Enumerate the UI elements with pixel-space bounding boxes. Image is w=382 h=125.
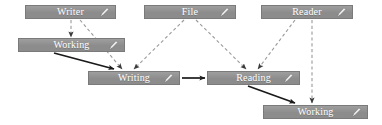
node-file-label: File: [182, 7, 198, 17]
edge-file-to-reading: [196, 20, 246, 69]
node-working-top[interactable]: Working: [18, 38, 125, 52]
edge-working-top-to-writing: [54, 53, 114, 69]
edge-reading-to-working-bot: [248, 86, 295, 103]
pencil-icon[interactable]: [99, 7, 110, 18]
diagram-canvas: Writer File Reader Working Writing: [0, 0, 382, 125]
node-working-bottom[interactable]: Working: [263, 105, 368, 119]
pencil-icon[interactable]: [163, 73, 174, 84]
pencil-icon[interactable]: [219, 7, 230, 18]
node-reader[interactable]: Reader: [261, 5, 353, 19]
pencil-icon[interactable]: [108, 40, 119, 51]
node-writing-label: Writing: [118, 73, 150, 83]
node-reading-label: Reading: [236, 73, 271, 83]
node-file[interactable]: File: [144, 5, 236, 19]
edge-reader-to-reading: [258, 20, 295, 69]
pencil-icon[interactable]: [336, 7, 347, 18]
edge-file-to-writing: [134, 20, 184, 69]
node-writing[interactable]: Writing: [88, 71, 180, 85]
pencil-icon[interactable]: [283, 73, 294, 84]
node-reader-label: Reader: [292, 7, 322, 17]
pencil-icon[interactable]: [351, 107, 362, 118]
node-reading[interactable]: Reading: [207, 71, 300, 85]
node-working-top-label: Working: [53, 40, 89, 50]
node-working-bottom-label: Working: [297, 107, 333, 117]
node-writer-label: Writer: [57, 7, 84, 17]
node-writer[interactable]: Writer: [25, 5, 116, 19]
